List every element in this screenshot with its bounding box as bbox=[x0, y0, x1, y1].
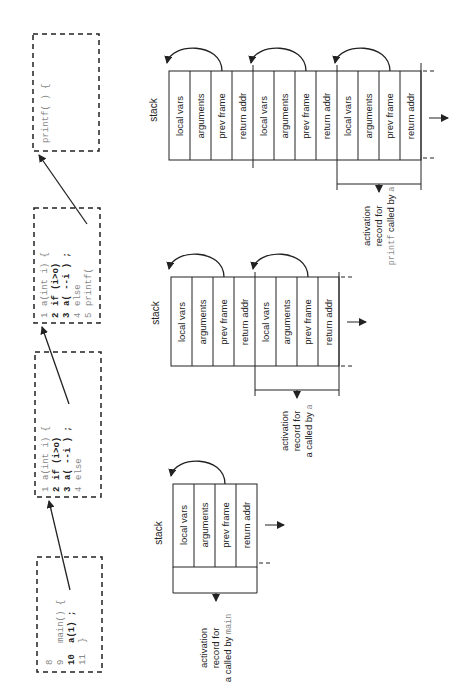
stack-cell: prev frame bbox=[218, 299, 229, 344]
line-number: 1 bbox=[40, 313, 50, 318]
stack-cell: local vars bbox=[342, 96, 353, 136]
stack-label: stack bbox=[148, 97, 159, 121]
code-line: if (i>o) bbox=[52, 437, 62, 480]
code-box-a-first: 1 2 3 4 a(int i) { if (i>o) a( --i ) ; e… bbox=[35, 352, 101, 497]
call-arrow bbox=[49, 501, 70, 590]
frame-link-arrow bbox=[251, 48, 306, 71]
line-number: 2 bbox=[51, 313, 61, 318]
frame-link-arrow bbox=[169, 254, 224, 277]
code-line: if (i>o) bbox=[51, 263, 61, 306]
record-label: record for bbox=[210, 628, 221, 669]
line-number: 8 bbox=[45, 660, 55, 665]
code-line: else bbox=[74, 458, 84, 480]
stack-cell: local vars bbox=[176, 302, 187, 342]
line-number: 4 bbox=[73, 313, 83, 318]
code-line: a(1) ; bbox=[67, 611, 77, 643]
line-number: 3 bbox=[63, 487, 73, 492]
stack-cell: return addr bbox=[239, 299, 250, 345]
code-line: printf( ) { bbox=[41, 84, 51, 143]
code-line: main() { bbox=[56, 600, 66, 643]
stack-cell: prev frame bbox=[216, 93, 227, 138]
line-number: 3 bbox=[62, 313, 72, 318]
line-number: 11 bbox=[78, 654, 88, 665]
code-line: printf( bbox=[84, 268, 94, 306]
stack-cell: return addr bbox=[237, 93, 248, 139]
stack-cell: local vars bbox=[260, 302, 271, 342]
stack-cell: arguments bbox=[197, 299, 208, 344]
stack-1: stack local vars arguments prev frame re… bbox=[153, 461, 284, 682]
code-box-printf: printf( ) { bbox=[33, 34, 99, 151]
frame-link-arrow bbox=[171, 461, 225, 484]
stack-label: stack bbox=[150, 300, 161, 324]
line-number: 5 bbox=[84, 313, 94, 318]
record-label: activation bbox=[198, 628, 209, 668]
code-line: a(int i) { bbox=[40, 252, 50, 306]
stack-cell: arguments bbox=[195, 93, 206, 138]
stack-cell: prev frame bbox=[220, 502, 231, 547]
frame-link-arrow bbox=[167, 48, 222, 71]
stack-cell: local vars bbox=[258, 96, 269, 136]
line-number: 2 bbox=[52, 487, 62, 492]
line-number: 1 bbox=[41, 487, 51, 492]
stack-cell: return addr bbox=[241, 502, 252, 548]
stack-cell: arguments bbox=[199, 502, 210, 547]
line-number: 10 bbox=[67, 654, 77, 665]
record-label: a called by main bbox=[222, 614, 234, 682]
code-line: a( --i ) ; bbox=[63, 426, 73, 480]
record-label: a called by a bbox=[303, 404, 315, 457]
stack-cell: arguments bbox=[363, 93, 374, 138]
stack-cell: local vars bbox=[174, 96, 185, 136]
record-label: printf called by a bbox=[385, 187, 397, 266]
stack-cell: return addr bbox=[323, 299, 334, 345]
call-arrow bbox=[39, 155, 87, 224]
stack-3: stack local vars arguments prev frame re… bbox=[148, 48, 448, 265]
stack-cell: arguments bbox=[281, 299, 292, 344]
code-box-main: 8 9 10 11 main() { a(1) ; } bbox=[37, 557, 102, 672]
activation-record-diagram: 8 9 10 11 main() { a(1) ; } 1 2 3 4 a(in… bbox=[0, 0, 465, 695]
stack-cell: return addr bbox=[405, 93, 416, 139]
code-line: } bbox=[78, 638, 88, 643]
stack-label: stack bbox=[153, 520, 164, 544]
line-number: 9 bbox=[56, 660, 66, 665]
code-box-a-second: 1 2 3 4 5 a(int i) { if (i>o) a( --i ) ;… bbox=[34, 208, 100, 323]
record-label: record for bbox=[291, 411, 302, 452]
record-label: record for bbox=[373, 206, 384, 247]
call-arrow bbox=[42, 327, 69, 404]
frame-link-arrow bbox=[253, 254, 308, 277]
line-number: 4 bbox=[74, 487, 84, 492]
code-line: else bbox=[73, 284, 83, 306]
frame-link-arrow bbox=[335, 48, 390, 71]
stack-cell: prev frame bbox=[384, 93, 395, 138]
stack-cell: prev frame bbox=[300, 93, 311, 138]
record-label: activation bbox=[361, 206, 372, 246]
stack-cell: arguments bbox=[279, 93, 290, 138]
stack-cell: prev frame bbox=[302, 299, 313, 344]
code-line: a(int i) { bbox=[41, 426, 51, 480]
record-label: activation bbox=[279, 411, 290, 451]
stack-cell: return addr bbox=[321, 93, 332, 139]
code-line: a( --i ) ; bbox=[62, 252, 72, 306]
stack-2: stack local vars arguments prev frame re… bbox=[150, 254, 366, 457]
stack-cell: local vars bbox=[178, 505, 189, 545]
